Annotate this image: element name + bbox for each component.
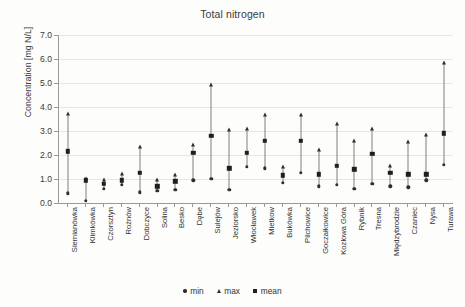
data-point-mean[interactable] [102,182,106,186]
data-point-max[interactable] [263,113,267,117]
data-point-max[interactable] [406,139,410,143]
x-axis-tick-mark [103,204,104,207]
data-series-group[interactable] [435,35,453,203]
data-series-group[interactable] [256,35,274,203]
x-axis-tick-label: Klimkówka [88,207,97,243]
data-series-group[interactable] [238,35,256,203]
data-series-group[interactable] [202,35,220,203]
data-point-min[interactable] [371,182,374,185]
data-point-min[interactable] [299,171,302,174]
data-point-max[interactable] [173,173,177,177]
data-point-min[interactable] [245,165,248,168]
data-point-mean[interactable] [66,149,70,153]
data-point-mean[interactable] [137,171,141,175]
min-marker-icon [183,289,186,292]
data-point-max[interactable] [245,126,249,130]
data-point-min[interactable] [156,189,159,192]
data-point-max[interactable] [370,126,374,130]
data-point-max[interactable] [388,163,392,167]
data-point-mean[interactable] [406,172,410,176]
data-point-max[interactable] [66,112,70,116]
data-series-group[interactable] [59,35,77,203]
x-axis-tick-mark [443,204,444,207]
x-axis-tick-mark [371,204,372,207]
data-point-min[interactable] [335,183,338,186]
data-series-group[interactable] [95,35,113,203]
data-point-mean[interactable] [263,138,267,142]
data-point-min[interactable] [174,188,177,191]
x-axis-tick-label: Rożnów [124,207,133,234]
data-point-mean[interactable] [209,134,213,138]
data-series-group[interactable] [77,35,95,203]
data-series-group[interactable] [328,35,346,203]
data-point-min[interactable] [407,186,410,189]
data-point-max[interactable] [317,148,321,152]
data-point-min[interactable] [227,188,230,191]
data-point-mean[interactable] [424,172,428,176]
chart-title: Total nitrogen [0,8,465,20]
data-point-min[interactable] [138,190,141,193]
data-series-group[interactable] [292,35,310,203]
x-axis-tick-label: Rybnik [357,207,366,230]
data-point-min[interactable] [389,184,392,187]
data-point-mean[interactable] [370,152,374,156]
x-axis-tick-label: Czorsztyn [106,207,115,241]
x-axis-tick-label: Besko [177,207,186,228]
data-point-min[interactable] [317,184,320,187]
data-series-group[interactable] [417,35,435,203]
data-point-mean[interactable] [155,184,159,188]
data-point-mean[interactable] [173,179,177,183]
data-point-min[interactable] [263,166,266,169]
data-point-min[interactable] [66,192,69,195]
data-point-mean[interactable] [281,173,285,177]
data-point-mean[interactable] [119,178,123,182]
data-point-mean[interactable] [352,167,356,171]
data-point-max[interactable] [352,138,356,142]
data-series-group[interactable] [184,35,202,203]
data-point-min[interactable] [102,187,105,190]
data-point-max[interactable] [442,60,446,64]
data-series-group[interactable] [399,35,417,203]
data-point-max[interactable] [299,113,303,117]
range-stem [372,129,373,184]
x-axis-tick-label: Międzybrodzie [392,207,401,256]
data-series-group[interactable] [363,35,381,203]
data-point-min[interactable] [192,178,195,181]
data-point-mean[interactable] [84,178,88,182]
data-point-max[interactable] [209,83,213,87]
x-axis-tick-label: Solina [160,207,169,228]
data-point-max[interactable] [120,172,124,176]
data-point-mean[interactable] [191,150,195,154]
data-point-max[interactable] [335,121,339,125]
data-point-mean[interactable] [299,138,303,142]
data-series-group[interactable] [166,35,184,203]
data-point-min[interactable] [442,163,445,166]
data-point-max[interactable] [227,127,231,131]
data-series-group[interactable] [220,35,238,203]
data-point-min[interactable] [120,183,123,186]
data-series-group[interactable] [346,35,364,203]
data-series-group[interactable] [274,35,292,203]
data-point-mean[interactable] [316,172,320,176]
data-point-mean[interactable] [442,131,446,135]
data-series-group[interactable] [113,35,131,203]
data-point-min[interactable] [210,177,213,180]
data-series-group[interactable] [131,35,149,203]
data-point-max[interactable] [281,165,285,169]
data-series-group[interactable] [310,35,328,203]
data-point-min[interactable] [353,187,356,190]
data-point-min[interactable] [84,199,87,202]
data-point-mean[interactable] [388,171,392,175]
data-point-mean[interactable] [227,166,231,170]
plot-area [58,35,453,204]
data-series-group[interactable] [381,35,399,203]
data-point-max[interactable] [138,144,142,148]
data-point-max[interactable] [424,132,428,136]
data-point-mean[interactable] [245,150,249,154]
data-point-max[interactable] [191,143,195,147]
data-point-min[interactable] [424,178,427,181]
data-series-group[interactable] [149,35,167,203]
data-point-mean[interactable] [334,164,338,168]
data-point-max[interactable] [155,178,159,182]
data-point-min[interactable] [281,181,284,184]
